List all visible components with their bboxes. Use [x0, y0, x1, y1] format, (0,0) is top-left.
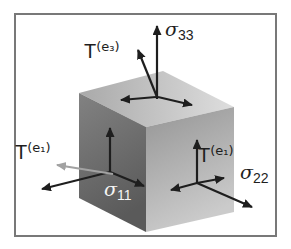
sigma-11-subscript: 11 — [117, 187, 132, 203]
cube-right-face — [146, 107, 234, 232]
sigma-33-label: σ33 — [165, 20, 194, 42]
traction-e1-right-base: T — [198, 144, 210, 166]
traction-e1-left-superscript: (e₁) — [27, 140, 50, 155]
sigma-11-symbol: σ — [104, 178, 117, 200]
traction-e3-label: T(e₃) — [84, 40, 120, 61]
traction-e1-right-label: T(e₁) — [198, 144, 234, 165]
sigma-22-symbol: σ — [240, 161, 253, 183]
sigma-33-symbol: σ — [165, 18, 178, 40]
traction-e1-right-superscript: (e₁) — [210, 143, 233, 158]
traction-e3-base: T — [84, 40, 96, 62]
traction-e3-superscript: (e₃) — [96, 39, 119, 54]
sigma-22-subscript: 22 — [253, 170, 269, 186]
stress-cube-figure — [0, 0, 291, 249]
traction-e1-left-base: T — [15, 141, 27, 163]
sigma-11-label: σ11 — [104, 180, 132, 202]
sigma-22-label: σ22 — [240, 163, 269, 185]
traction-e1-left-label: T(e₁) — [15, 141, 51, 162]
sigma-33-subscript: 33 — [178, 27, 194, 43]
